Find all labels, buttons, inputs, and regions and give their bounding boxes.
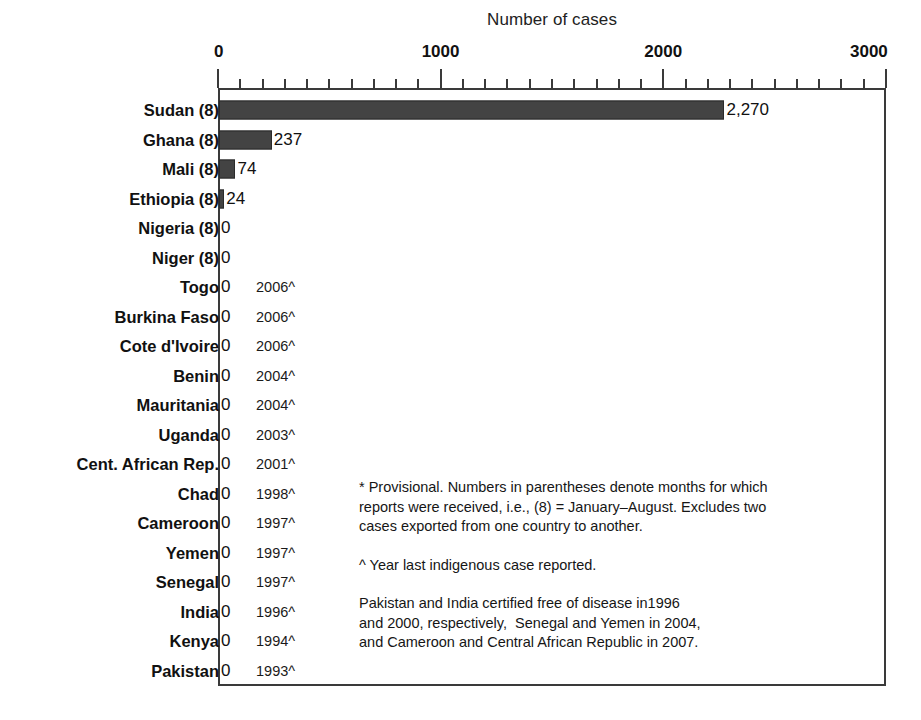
bar-value-label: 0 [221,218,230,238]
x-axis-minor-tick [840,79,842,88]
bar-value-label: 2,270 [726,100,769,120]
category-label: Burkina Faso [114,307,219,326]
x-axis-tick-label: 1000 [422,42,460,62]
x-axis-minor-tick [417,79,419,88]
bar-value-label: 0 [221,484,230,504]
bar-value-label: 0 [221,454,230,474]
category-label: Sudan (8) [144,101,219,120]
category-label: Cote d'Ivoire [120,337,219,356]
footnote-line: and 2000, respectively, Senegal and Yeme… [359,614,864,634]
x-axis-tick-label: 2000 [644,42,682,62]
x-axis-minor-tick [284,79,286,88]
category-label: Niger (8) [152,248,219,267]
bar-value-label: 24 [226,189,245,209]
footnote-line: * Provisional. Numbers in parentheses de… [359,478,864,498]
category-label: Benin [173,366,219,385]
x-axis-minor-tick [328,79,330,88]
bar-value-label: 0 [221,425,230,445]
x-axis-minor-tick [707,79,709,88]
x-axis-major-tick [440,69,442,88]
x-axis-minor-tick [774,79,776,88]
category-label: Togo [180,278,219,297]
x-axis-minor-tick [351,79,353,88]
bar-value-label: 0 [221,513,230,533]
x-axis-minor-tick [462,79,464,88]
x-axis-major-tick [217,69,219,88]
year-last-case-label: 2004^ [256,368,295,384]
x-axis-tick-labels: 0100020003000 [0,42,921,66]
footnote-line: and Cameroon and Central African Republi… [359,633,864,653]
x-axis-major-tick [885,69,887,88]
bar-chart: Number of cases 0100020003000 Sudan (8)2… [0,0,921,720]
chart-row: Nigeria (8)0 [0,213,921,243]
category-label: Cent. African Rep. [77,455,219,474]
x-axis-minor-tick [551,79,553,88]
x-axis-minor-tick [573,79,575,88]
bar-value-label: 0 [221,277,230,297]
chart-row: Mali (8)74 [0,154,921,184]
x-axis-minor-tick [306,79,308,88]
category-label: Chad [178,484,219,503]
chart-row: Uganda02003^ [0,420,921,450]
bar-value-label: 0 [221,395,230,415]
category-label: Mali (8) [162,160,219,179]
footnote-line: Pakistan and India certified free of dis… [359,594,864,614]
bar-value-label: 0 [221,307,230,327]
category-label: Pakistan [151,661,219,680]
x-axis-minor-tick [863,79,865,88]
year-last-case-label: 1996^ [256,604,295,620]
year-last-case-label: 1997^ [256,574,295,590]
chart-row: Sudan (8)2,270 [0,95,921,125]
year-last-case-label: 2004^ [256,397,295,413]
x-axis-minor-tick [529,79,531,88]
chart-row: Ghana (8)237 [0,125,921,155]
footnote-block: Pakistan and India certified free of dis… [359,594,864,653]
x-axis-minor-tick [395,79,397,88]
chart-row: Togo02006^ [0,272,921,302]
year-last-case-label: 2003^ [256,427,295,443]
year-last-case-label: 2001^ [256,456,295,472]
footnote-block: * Provisional. Numbers in parentheses de… [359,478,864,537]
bar [219,130,272,149]
category-label: Ethiopia (8) [129,189,219,208]
footnote-line: ^ Year last indigenous case reported. [359,556,864,576]
bar [219,189,224,208]
x-axis-minor-tick [796,79,798,88]
x-axis-minor-tick [618,79,620,88]
footnote-block: ^ Year last indigenous case reported. [359,556,864,576]
category-label: Uganda [158,425,219,444]
x-axis-minor-tick [640,79,642,88]
x-axis-minor-tick [484,79,486,88]
year-last-case-label: 2006^ [256,338,295,354]
year-last-case-label: 1997^ [256,545,295,561]
x-axis-tick-label: 3000 [850,42,888,62]
category-label: Ghana (8) [143,130,219,149]
category-label: Cameroon [137,514,219,533]
year-last-case-label: 2006^ [256,309,295,325]
chart-row: Cote d'Ivoire02006^ [0,331,921,361]
bar-value-label: 0 [221,572,230,592]
bar-value-label: 0 [221,336,230,356]
x-axis-minor-tick [818,79,820,88]
year-last-case-label: 1993^ [256,663,295,679]
chart-row: Mauritania02004^ [0,390,921,420]
x-axis-tick-marks [218,68,886,88]
bar [219,160,235,179]
year-last-case-label: 1997^ [256,515,295,531]
x-axis-minor-tick [751,79,753,88]
x-axis-minor-tick [239,79,241,88]
bar [219,101,724,120]
chart-row: Niger (8)0 [0,243,921,273]
chart-row: Cent. African Rep.02001^ [0,449,921,479]
chart-row: Benin02004^ [0,361,921,391]
x-axis-major-tick [662,69,664,88]
x-axis-minor-tick [596,79,598,88]
footnote-line: reports were received, i.e., (8) = Janua… [359,498,864,518]
year-last-case-label: 1998^ [256,486,295,502]
category-label: Kenya [169,632,219,651]
category-label: India [180,602,219,621]
year-last-case-label: 1994^ [256,633,295,649]
x-axis-tick-label: 0 [214,42,223,62]
bar-value-label: 0 [221,602,230,622]
chart-row: Ethiopia (8)24 [0,184,921,214]
